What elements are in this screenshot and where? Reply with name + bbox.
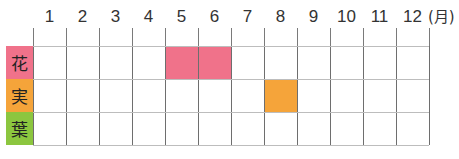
- month-label: 12: [396, 6, 429, 28]
- grid-line-horizontal: [33, 112, 429, 113]
- grid-line-vertical: [99, 46, 100, 145]
- grid-line-vertical: [66, 46, 67, 145]
- month-tick-line: [429, 28, 430, 46]
- month-label: 3: [99, 6, 132, 28]
- grid-line-horizontal: [33, 145, 429, 146]
- grid-line-vertical: [363, 46, 364, 145]
- month-tick-line: [165, 28, 166, 46]
- month-label: 11: [363, 6, 396, 28]
- month-label: 9: [297, 6, 330, 28]
- month-label: 7: [231, 6, 264, 28]
- month-tick-line: [198, 28, 199, 46]
- month-tick-line: [363, 28, 364, 46]
- grid-line-vertical: [330, 46, 331, 145]
- month-tick-line: [297, 28, 298, 46]
- month-tick-line: [396, 28, 397, 46]
- month-label: 5: [165, 6, 198, 28]
- month-tick-line: [33, 28, 34, 46]
- month-label: 8: [264, 6, 297, 28]
- grid-line-vertical: [231, 46, 232, 145]
- grid-line-vertical: [297, 46, 298, 145]
- month-tick-line: [330, 28, 331, 46]
- month-label: 4: [132, 6, 165, 28]
- row-label: 葉: [6, 112, 33, 145]
- grid-line-vertical: [396, 46, 397, 145]
- month-label: 2: [66, 6, 99, 28]
- unit-label: (月): [428, 6, 455, 28]
- active-month-cell: [165, 46, 198, 79]
- grid-line-vertical: [132, 46, 133, 145]
- grid-line-vertical: [198, 46, 199, 145]
- row-label: 花: [6, 46, 33, 79]
- month-tick-line: [132, 28, 133, 46]
- month-tick-line: [231, 28, 232, 46]
- grid-line-vertical: [165, 46, 166, 145]
- grid-line-vertical: [264, 46, 265, 145]
- month-tick-line: [99, 28, 100, 46]
- month-label: 6: [198, 6, 231, 28]
- month-tick-line: [66, 28, 67, 46]
- month-tick-line: [264, 28, 265, 46]
- grid-line-horizontal: [33, 79, 429, 80]
- grid-line-vertical: [33, 46, 34, 145]
- seasonal-calendar-chart: 123456789101112(月)花実葉: [0, 0, 459, 159]
- row-label: 実: [6, 79, 33, 112]
- active-month-cell: [198, 46, 231, 79]
- grid-line-horizontal: [33, 46, 429, 47]
- month-label: 1: [33, 6, 66, 28]
- grid-line-vertical: [429, 46, 430, 145]
- month-label: 10: [330, 6, 363, 28]
- active-month-cell: [264, 79, 297, 112]
